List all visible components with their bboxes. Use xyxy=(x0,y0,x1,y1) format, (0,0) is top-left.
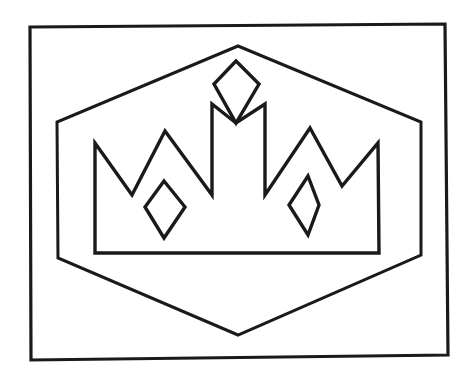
paper-background xyxy=(0,0,469,380)
line-art-illustration: Black outline drawing of a five-point cr… xyxy=(0,0,469,380)
drawing-canvas: Black outline drawing of a five-point cr… xyxy=(0,0,469,380)
